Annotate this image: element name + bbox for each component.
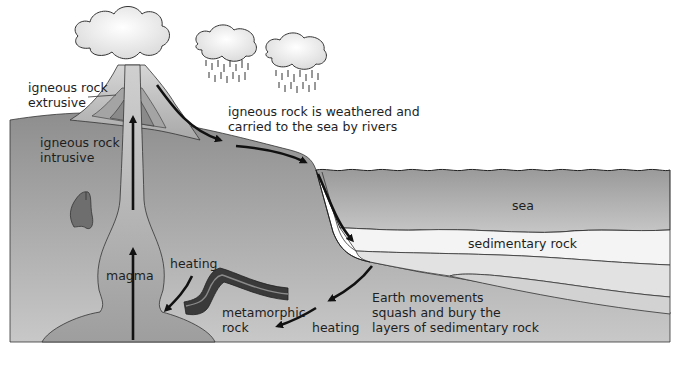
label-heating-bottom: heating — [312, 320, 360, 335]
rain-cloud-2 — [266, 33, 327, 69]
diagram-canvas — [0, 0, 677, 365]
sea-region — [316, 169, 670, 232]
label-earth-movements: Earth movements squash and bury the laye… — [372, 290, 539, 335]
label-weathering: igneous rock is weathered and carried to… — [228, 104, 420, 134]
label-igneous-extrusive: igneous rock extrusive — [28, 80, 108, 110]
label-magma: magma — [106, 268, 154, 283]
rock-cycle-diagram: igneous rock extrusive igneous rock intr… — [0, 0, 677, 365]
label-heating-left: heating — [170, 256, 218, 271]
label-sea: sea — [512, 198, 534, 213]
cloud-volcano — [75, 7, 169, 59]
label-metamorphic-rock: metamorphic rock — [222, 305, 306, 335]
label-sedimentary-rock: sedimentary rock — [468, 236, 577, 251]
rain-cloud-1 — [196, 25, 257, 61]
label-igneous-intrusive: igneous rock intrusive — [40, 135, 120, 165]
